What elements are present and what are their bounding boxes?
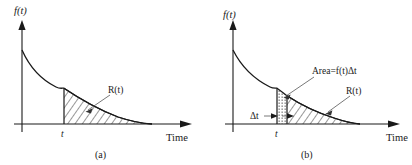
leader-area-b	[283, 77, 314, 100]
x-axis-arrowhead	[180, 120, 192, 127]
panel-a: f(t) Time t R(t) (a)	[0, 0, 206, 165]
x-axis-label: Time	[166, 132, 188, 143]
annotation-reliability: R(t)	[108, 85, 123, 96]
annotation-area: Area=f(t)Δt	[312, 66, 357, 77]
figure-container: f(t) Time t R(t) (a)	[0, 0, 412, 165]
panel-b: f(t) Time t Area=f(t)Δt R(t) Δt (b)	[206, 0, 412, 165]
annotation-reliability: R(t)	[346, 86, 361, 97]
panel-caption-a: (a)	[95, 149, 106, 161]
y-axis-label: f(t)	[223, 9, 236, 21]
panel-caption-b: (b)	[301, 149, 313, 161]
x-axis-arrowhead	[388, 120, 400, 127]
tick-label-t: t	[275, 129, 278, 139]
annotation-delta-t: Δt	[250, 111, 259, 121]
y-axis-arrowhead	[18, 20, 25, 30]
x-axis-label: Time	[386, 132, 408, 143]
leader-reliability-b	[325, 96, 350, 116]
tick-label-t: t	[61, 129, 64, 139]
y-axis-arrowhead	[229, 20, 236, 30]
y-axis-label: f(t)	[14, 5, 27, 17]
